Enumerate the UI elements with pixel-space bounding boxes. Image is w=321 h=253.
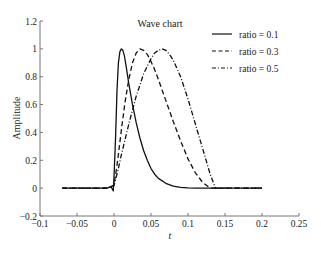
legend-label-3: ratio = 0.5 [239,64,279,74]
legend: ratio = 0.1ratio = 0.3ratio = 0.5 [212,30,279,74]
y-tick-label: −0.2 [20,212,37,222]
x-axis-ticks: −0.1−0.0500.050.10.150.20.25 [31,213,307,229]
x-tick-label: 0.05 [143,219,160,229]
series-line-2 [62,49,262,188]
x-tick-label: 0.25 [291,219,308,229]
x-axis-label: t [169,230,172,241]
wave-chart: −0.1−0.0500.050.10.150.20.25 −0.200.20.4… [0,0,321,253]
x-tick-label: −0.05 [66,219,88,229]
y-tick-label: 0.6 [25,100,37,110]
x-tick-label: 0.15 [217,219,234,229]
x-tick-label: 0.1 [182,219,194,229]
legend-label-1: ratio = 0.1 [239,30,279,40]
y-tick-label: 0.8 [25,72,37,82]
series-lines [62,49,262,191]
y-tick-label: 0.4 [25,128,37,138]
y-tick-label: 0 [32,184,37,194]
chart-title: Wave chart [138,18,183,29]
series-line-3 [62,49,262,188]
y-tick-label: 0.2 [25,156,37,166]
x-tick-label: 0.2 [256,219,268,229]
x-tick-label: 0 [112,219,117,229]
y-tick-label: 1.2 [25,17,37,27]
y-tick-label: 1 [32,44,37,54]
y-axis-label: Amplitude [11,96,22,139]
series-line-1 [62,49,262,191]
legend-label-2: ratio = 0.3 [239,47,279,57]
